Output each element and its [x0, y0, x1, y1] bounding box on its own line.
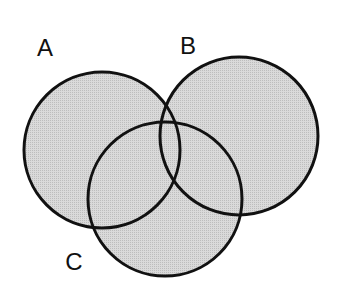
- label-c: C: [65, 248, 82, 275]
- label-b: B: [180, 32, 196, 59]
- circle-fills: [24, 57, 318, 276]
- label-a: A: [37, 34, 53, 61]
- venn-diagram: ABC: [0, 0, 340, 289]
